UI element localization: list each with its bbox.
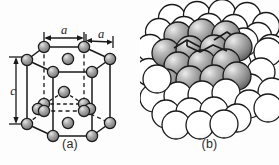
- figure-root: a a c: [0, 0, 279, 165]
- label-c-left: c: [10, 84, 16, 98]
- atom: [47, 66, 58, 77]
- sphere-plain: [143, 65, 171, 93]
- sphere-plain: [210, 110, 238, 138]
- atom-top-center: [62, 53, 73, 64]
- spheres-bottom-row: [162, 110, 238, 139]
- atom: [38, 41, 49, 52]
- atom: [78, 105, 89, 116]
- atom: [58, 86, 69, 97]
- atom: [21, 54, 32, 65]
- label-a-top-right: a: [98, 27, 104, 41]
- dimension-a-top-right: a: [86, 27, 113, 48]
- atom: [104, 53, 115, 64]
- atom: [21, 118, 32, 129]
- hcp-unit-cell-diagram: a a c: [0, 0, 140, 150]
- atom-bottom-center: [62, 117, 73, 128]
- dimension-c-left: c: [9, 57, 24, 124]
- caption-a: (a): [0, 137, 140, 151]
- dimension-a-top-left: a: [44, 23, 84, 44]
- hcp-hard-sphere-diagram: [140, 0, 279, 150]
- panel-b-sphere-model: (b): [140, 0, 279, 165]
- atom: [104, 117, 115, 128]
- caption-b: (b): [140, 137, 279, 151]
- atom: [38, 105, 49, 116]
- panel-a-unit-cell: a a c: [0, 0, 140, 165]
- label-a-top-left: a: [61, 23, 67, 37]
- atom: [78, 41, 89, 52]
- atom: [86, 66, 97, 77]
- sphere-plain: [254, 94, 279, 122]
